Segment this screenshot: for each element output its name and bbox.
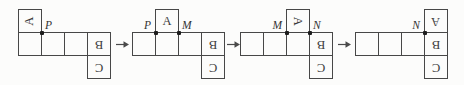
row-cell-2 <box>155 32 179 56</box>
cell-c: C <box>87 55 111 79</box>
net-stage-1: BACP <box>18 9 111 79</box>
net-stage-4: BACN <box>355 9 448 79</box>
letter-b: B <box>209 38 217 51</box>
corner-dot-n <box>308 31 312 35</box>
letter-c: C <box>95 61 103 74</box>
letter-c: C <box>209 61 217 74</box>
rolling-square-a: A <box>18 9 42 33</box>
letter-a: A <box>24 16 37 25</box>
row-cell-4: B <box>309 32 333 56</box>
corner-dot-p <box>40 31 44 35</box>
rolling-square-a: A <box>286 9 310 33</box>
row-cell-4: B <box>87 32 111 56</box>
right-arrow-icon <box>227 40 240 49</box>
point-label-n: N <box>313 19 321 32</box>
letter-a: A <box>431 15 440 28</box>
point-label-m: M <box>182 19 192 32</box>
row-cell-4: B <box>424 32 448 56</box>
corner-dot-n <box>423 31 427 35</box>
letter-a: A <box>162 15 171 28</box>
corner-dot-m <box>285 31 289 35</box>
rolling-square-a: A <box>424 9 448 33</box>
letter-b: B <box>317 38 325 51</box>
point-label-n: N <box>412 19 420 32</box>
cell-c: C <box>309 55 333 79</box>
corner-dot-p <box>154 31 158 35</box>
cell-c: C <box>201 55 225 79</box>
row-cell-2 <box>378 32 402 56</box>
row-cell-1 <box>18 32 42 56</box>
letter-c: C <box>317 61 325 74</box>
row-cell-1 <box>355 32 379 56</box>
row-cell-3 <box>286 32 310 56</box>
letter-c: C <box>432 61 440 74</box>
cell-c: C <box>424 55 448 79</box>
letter-a: A <box>292 16 305 25</box>
point-label-p: P <box>45 19 52 32</box>
row-cell-3 <box>401 32 425 56</box>
row-cell-2 <box>263 32 287 56</box>
row-cell-2 <box>41 32 65 56</box>
right-arrow-icon <box>338 40 351 49</box>
rolling-square-a: A <box>155 9 179 33</box>
row-cell-4: B <box>201 32 225 56</box>
net-stage-2: BACPM <box>132 9 225 79</box>
row-cell-3 <box>64 32 88 56</box>
point-label-p: P <box>144 19 151 32</box>
rolling-square-net-diagram: BACPBACPMBACMNBACN <box>0 0 464 85</box>
row-cell-3 <box>178 32 202 56</box>
right-arrow-icon <box>116 40 129 49</box>
letter-b: B <box>95 38 103 51</box>
row-cell-1 <box>240 32 264 56</box>
letter-b: B <box>432 38 440 51</box>
point-label-m: M <box>272 19 282 32</box>
net-stage-3: BACMN <box>240 9 333 79</box>
corner-dot-m <box>177 31 181 35</box>
row-cell-1 <box>132 32 156 56</box>
